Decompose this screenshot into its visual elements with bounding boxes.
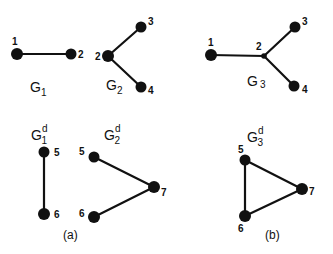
node-g3d-5 [240,155,251,166]
node-g3-1 [205,49,217,61]
node-label-g2d-6: 6 [79,208,85,219]
edge-g2d-5-7 [94,157,154,187]
node-label-g2-3: 3 [148,16,154,27]
edge-g2d-6-7 [94,187,154,217]
node-g3-3 [290,22,301,33]
node-label-g2d-7: 7 [161,187,167,198]
node-g1-2 [66,49,77,60]
edge-g3d-5-7 [245,160,302,189]
edge-g3-2-3 [264,27,295,56]
edge-g2-2-3 [108,27,141,56]
node-label-g3-1: 1 [208,37,214,48]
graph-diagram: 1 2 G1 2 3 4 G2 1 2 3 4 G3 [0,0,333,254]
node-g3-4 [289,81,300,92]
node-label-g3d-5: 5 [238,144,244,155]
graph-g3: 1 2 3 4 G3 [205,16,308,95]
caption-b: (b) [265,228,280,242]
node-label-g3d-7: 7 [309,186,315,197]
node-g2-2 [102,50,114,62]
graph-g2: 2 3 4 G2 [95,16,154,96]
graph-title-g1d: Gd1 [31,123,47,146]
node-g3d-6 [239,210,251,222]
graph-title-g3: G3 [247,73,266,90]
node-label-g2-4: 4 [148,85,154,96]
node-g3-2 [261,53,267,59]
graph-g2-dual: 5 6 7 Gd2 [79,123,167,223]
node-g2d-7 [148,181,160,193]
node-label-g1-1: 1 [12,36,18,47]
node-g1d-6 [38,208,50,220]
node-label-g3d-6: 6 [238,223,244,234]
node-g2d-5 [89,152,100,163]
graph-g3-dual: 5 6 7 Gd3 [238,125,315,234]
node-g2-4 [136,82,147,93]
node-g2d-6 [88,211,100,223]
node-label-g1-2: 2 [78,49,84,60]
edge-g3-2-4 [264,56,294,86]
graph-title-g3d: Gd3 [247,125,263,148]
graph-title-g2d: Gd2 [104,123,120,146]
node-g1-1 [11,48,23,60]
edge-g3d-6-7 [245,189,302,216]
caption-a: (a) [63,228,78,242]
graph-title-g1: G1 [30,79,47,98]
node-label-g1d-6: 6 [54,209,60,220]
node-label-g3-2: 2 [256,41,262,52]
node-label-g2d-5: 5 [79,146,85,157]
node-label-g1d-5: 5 [54,147,60,158]
graph-title-g2: G2 [106,77,123,96]
node-label-g3-4: 4 [302,84,308,95]
graph-g1-dual: 5 6 Gd1 [31,123,60,220]
edge-g3-1-2 [211,55,264,56]
graph-g1: 1 2 G1 [11,36,84,98]
node-g2-3 [136,22,147,33]
node-label-g3-3: 3 [302,16,308,27]
node-g1d-5 [39,147,50,158]
node-g3d-7 [296,183,308,195]
node-label-g2-2: 2 [95,51,101,62]
